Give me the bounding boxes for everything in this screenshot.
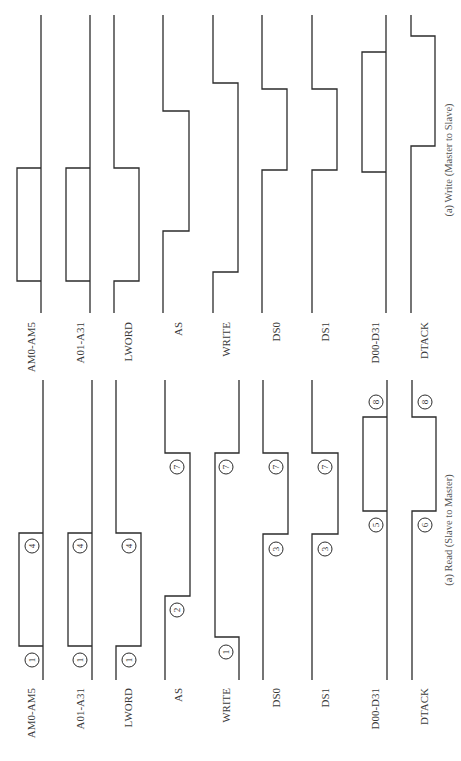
signal-label: DS0 — [270, 322, 282, 342]
signal-trace — [262, 15, 287, 313]
panel-caption: (a) Write (Master to Slave) — [443, 103, 455, 217]
step-marker: 1 — [25, 653, 39, 667]
signal-d00-d31: D00-D31 — [363, 380, 387, 730]
signal-label: D00-D31 — [369, 688, 381, 730]
step-marker: 3 — [318, 542, 332, 556]
step-marker: 4 — [73, 539, 87, 553]
signal-trace — [312, 15, 337, 313]
bus-valid-box — [362, 52, 386, 172]
step-number: 1 — [27, 658, 37, 663]
signal-d00-d31: D00-D31 — [362, 15, 386, 364]
signal-label: DTACK — [418, 688, 430, 725]
step-number: 2 — [172, 608, 182, 613]
step-number: 8 — [371, 399, 381, 404]
read-timing-panel: AM0-AM5A01-A31LWORDASWRITEDS0DS1D00-D31D… — [19, 380, 455, 738]
step-number: 4 — [124, 543, 134, 548]
step-number: 7 — [172, 464, 182, 469]
signal-ds0: DS0 — [262, 15, 287, 342]
step-marker: 8 — [369, 395, 383, 409]
signal-a01-a31: A01-A31 — [68, 380, 92, 730]
step-marker: 3 — [269, 542, 283, 556]
step-marker: 8 — [418, 395, 432, 409]
signal-trace — [411, 15, 435, 313]
signal-dtack: DTACK — [412, 380, 436, 725]
timing-diagram: AM0-AM5A01-A31LWORDASWRITEDS0DS1D00-D31D… — [0, 0, 461, 761]
write-timing-panel: AM0-AM5A01-A31LWORDASWRITEDS0DS1D00-D31D… — [17, 15, 455, 372]
step-number: 1 — [221, 650, 231, 655]
signal-label: WRITE — [220, 688, 232, 723]
step-number: 7 — [320, 464, 330, 469]
step-marker: 5 — [369, 518, 383, 532]
step-number: 3 — [271, 546, 281, 551]
signal-label: WRITE — [220, 322, 232, 357]
signal-trace — [116, 380, 141, 680]
signal-label: AM0-AM5 — [25, 322, 37, 373]
step-marker: 6 — [418, 518, 432, 532]
signal-trace — [163, 15, 189, 313]
signal-am0-am5: AM0-AM5 — [17, 15, 41, 372]
signal-label: AS — [172, 688, 184, 702]
step-number: 3 — [320, 546, 330, 551]
step-number: 8 — [420, 399, 430, 404]
step-marker: 7 — [269, 460, 283, 474]
signal-as: AS — [163, 15, 189, 336]
step-number: 4 — [27, 543, 37, 548]
step-number: 5 — [371, 522, 381, 527]
panel-caption: (a) Read (Slave to Master) — [443, 474, 455, 586]
signal-label: DS1 — [319, 322, 331, 342]
signal-label: LWORD — [122, 322, 134, 362]
bus-valid-box — [66, 168, 90, 281]
signal-trace — [215, 380, 239, 680]
bus-valid-box — [363, 417, 387, 511]
step-number: 1 — [124, 658, 134, 663]
bus-valid-box — [17, 168, 41, 281]
signal-label: D00-D31 — [369, 322, 381, 364]
step-marker: 2 — [170, 603, 184, 617]
signal-trace — [165, 380, 190, 680]
signal-label: A01-A31 — [74, 688, 86, 730]
signal-a01-a31: A01-A31 — [66, 15, 90, 364]
signal-write: WRITE — [213, 15, 238, 357]
step-number: 1 — [75, 658, 85, 663]
step-marker: 4 — [122, 539, 136, 553]
step-number: 7 — [221, 464, 231, 469]
step-marker: 1 — [73, 653, 87, 667]
signal-as: AS — [165, 380, 190, 702]
signal-trace — [312, 380, 338, 680]
signal-write: WRITE — [215, 380, 239, 723]
signal-trace — [263, 380, 288, 680]
signal-trace — [213, 15, 238, 313]
step-number: 7 — [271, 464, 281, 469]
signal-label: AS — [172, 322, 184, 336]
signal-label: LWORD — [122, 688, 134, 728]
step-marker: 7 — [170, 460, 184, 474]
step-marker: 7 — [318, 460, 332, 474]
step-number: 6 — [420, 522, 430, 527]
signal-label: DS1 — [319, 688, 331, 708]
step-number: 4 — [75, 543, 85, 548]
step-marker: 4 — [25, 539, 39, 553]
signal-trace — [114, 15, 139, 313]
signal-label: DS0 — [270, 688, 282, 708]
signal-ds1: DS1 — [312, 15, 337, 342]
signal-lword: LWORD — [114, 15, 139, 362]
signal-lword: LWORD — [116, 380, 141, 728]
signal-label: A01-A31 — [74, 322, 86, 364]
signal-dtack: DTACK — [411, 15, 435, 359]
step-marker: 1 — [122, 653, 136, 667]
step-marker: 1 — [219, 645, 233, 659]
signal-label: AM0-AM5 — [25, 688, 37, 739]
signal-am0-am5: AM0-AM5 — [19, 380, 43, 738]
signal-label: DTACK — [418, 322, 430, 359]
step-marker: 7 — [219, 460, 233, 474]
